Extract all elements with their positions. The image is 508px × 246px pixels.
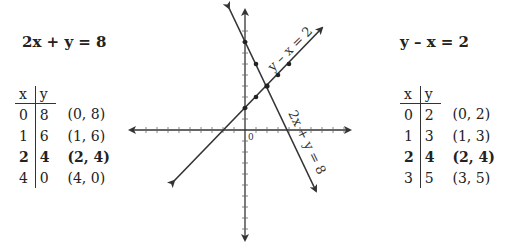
point-0-8 [243,40,248,45]
point-0-2 [243,106,248,111]
origin-label: 0 [248,132,254,142]
point-4-6 [287,62,292,67]
point-3-5 [276,73,281,78]
point-1-6 [254,62,259,67]
line2-label: y – x = 2 [264,23,316,75]
point-intersection-2-4 [264,83,269,88]
line1-label: 2x + y = 8 [285,108,329,177]
point-1-3 [254,95,259,100]
coordinate-graph: 0 y – x = 2 2x + y = 8 [0,0,508,246]
